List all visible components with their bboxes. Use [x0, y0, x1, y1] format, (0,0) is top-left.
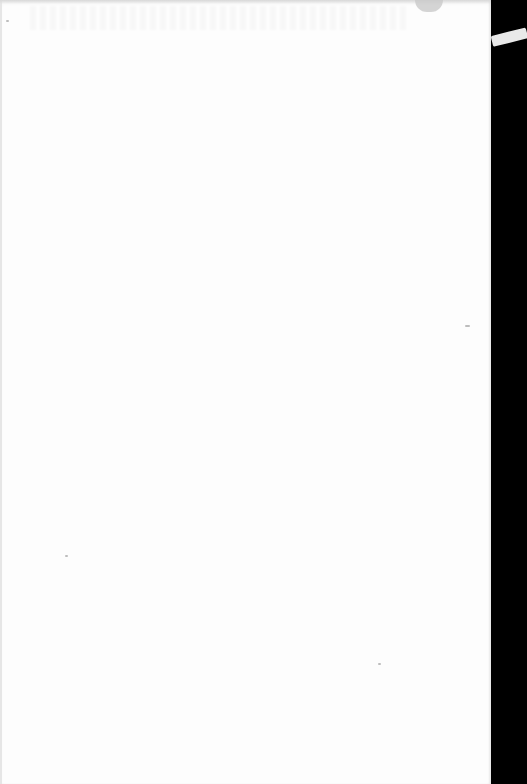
scan-shadow-mark [415, 0, 443, 12]
speck [6, 20, 9, 22]
blank-page [0, 0, 491, 784]
page-left-edge [0, 0, 2, 784]
scanner-background-strip [491, 0, 527, 784]
speck [378, 663, 381, 665]
scanned-document [0, 0, 527, 784]
bleed-through-text [30, 6, 410, 30]
speck [65, 555, 68, 557]
speck [465, 325, 470, 327]
